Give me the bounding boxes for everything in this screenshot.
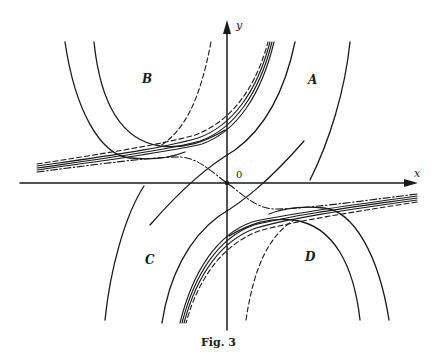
region-label-a: A	[308, 74, 317, 86]
region-label-b: B	[142, 73, 152, 85]
origin-label: 0	[236, 170, 242, 180]
bundle-line-6	[180, 196, 417, 323]
curve-d-dashed	[246, 220, 294, 320]
region-label-d: D	[305, 251, 315, 263]
y-axis-label: y	[236, 20, 242, 31]
curve-d-inner	[229, 219, 360, 320]
curve-b-dashed	[160, 42, 211, 146]
y-axis-arrow-icon	[223, 20, 231, 34]
bundle-dashed-lower	[186, 202, 417, 323]
region-label-c: C	[145, 254, 155, 266]
region-c-curves	[105, 141, 304, 323]
phase-portrait-diagram	[0, 0, 437, 364]
curve-a-outer	[310, 42, 350, 180]
separatrix-dash-dot-upper	[37, 157, 227, 183]
bundle-line-1	[37, 42, 270, 166]
x-axis-label: x	[414, 168, 420, 179]
x-axis-arrow-icon	[404, 179, 418, 187]
separatrix-dash-dot-lower	[227, 183, 417, 209]
curve-c-outer	[105, 186, 144, 320]
separatrix-bundle-lower	[180, 183, 417, 323]
axes	[20, 20, 418, 330]
region-a-curves	[150, 42, 350, 225]
bundle-line-4	[184, 200, 417, 323]
region-b-curves	[65, 42, 225, 159]
bundle-dashed-upper	[37, 42, 268, 164]
figure-caption: Fig. 3	[0, 336, 437, 349]
separatrix-bundle-upper	[37, 42, 274, 183]
